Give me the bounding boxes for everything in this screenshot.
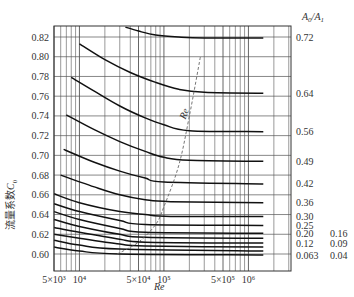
x-tick-label: 5×10³ (42, 274, 66, 285)
x-tick-label: 5×10⁴ (126, 274, 151, 285)
legend-title: A0/A1 (301, 11, 324, 24)
y-tick-label: 0.64 (32, 209, 50, 220)
series-curve (125, 27, 263, 38)
y-tick-label: 0.62 (32, 229, 50, 240)
svg-text:A0/A1: A0/A1 (301, 11, 324, 24)
svg-text:流量系数C0: 流量系数C0 (4, 179, 19, 230)
series-label: 0.56 (296, 126, 314, 137)
flow-coefficient-chart: 0.600.620.640.660.680.700.720.740.760.78… (0, 0, 354, 297)
series-label: 0.64 (296, 88, 314, 99)
series-label: 0.49 (296, 156, 314, 167)
series-curve (64, 149, 264, 184)
y-axis-label: 流量系数C0 (4, 179, 19, 230)
y-tick-label: 0.78 (32, 71, 50, 82)
series-curve (66, 115, 263, 161)
series-curve (61, 175, 264, 203)
y-tick-label: 0.66 (32, 189, 50, 200)
y-tick-label: 0.80 (32, 51, 50, 62)
series-curve (54, 220, 263, 239)
y-tick-label: 0.76 (32, 91, 50, 102)
series-label: 0.72 (296, 32, 314, 43)
series-label: 0.12 (296, 238, 314, 249)
y-tick-label: 0.74 (32, 110, 50, 121)
y-axis-ticks: 0.600.620.640.660.680.700.720.740.760.78… (32, 32, 50, 260)
x-axis-label: Re (153, 281, 165, 292)
y-tick-label: 0.70 (32, 150, 50, 161)
series-label: 0.09 (330, 238, 348, 249)
x-axis-ticks: 5×10³10⁴5×10⁴10⁵5×10⁵10⁶ (42, 274, 256, 285)
y-tick-label: 0.68 (32, 170, 50, 181)
x-tick-label: 10⁴ (73, 274, 87, 285)
series-curve (79, 44, 263, 93)
series-label: 0.063 (296, 250, 319, 261)
series-label: 0.42 (296, 178, 314, 189)
y-tick-label: 0.82 (32, 32, 50, 43)
y-tick-label: 0.72 (32, 130, 50, 141)
series-curve (54, 227, 263, 243)
series-curve (54, 234, 263, 247)
series-label: 0.36 (296, 197, 314, 208)
series-label: 0.04 (330, 250, 348, 261)
x-tick-label: 5×10⁵ (211, 274, 235, 285)
y-tick-label: 0.60 (32, 249, 50, 260)
x-tick-label: 10⁶ (242, 274, 256, 285)
series-labels: 0.720.640.560.490.420.360.300.250.200.12… (296, 32, 348, 261)
data-curves (54, 27, 263, 255)
